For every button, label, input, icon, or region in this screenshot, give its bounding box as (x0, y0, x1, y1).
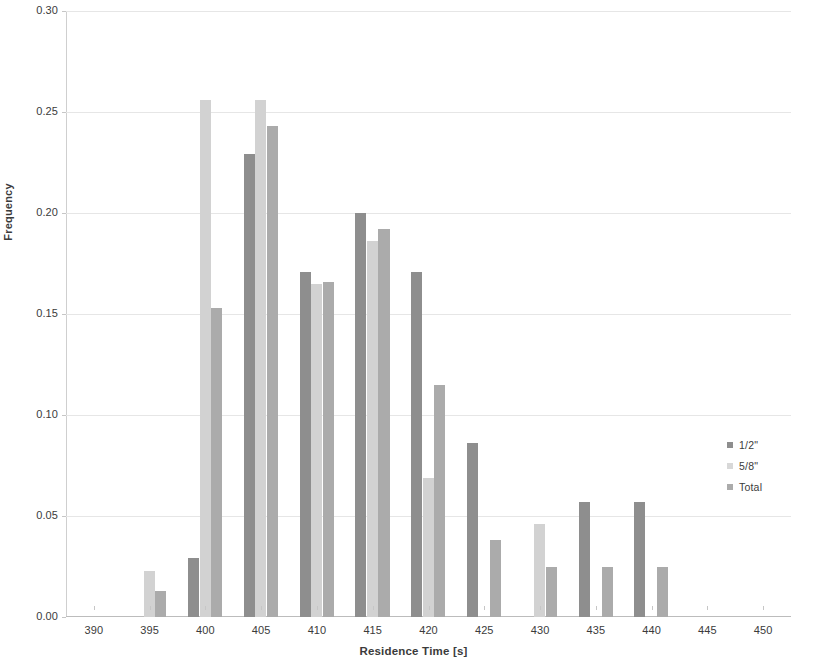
bar (188, 558, 199, 617)
y-axis-tick-label: 0.00 (4, 610, 58, 622)
x-axis-tick-mark (707, 606, 708, 610)
x-axis-tick-label: 400 (185, 624, 225, 636)
bar (155, 591, 166, 617)
bar (434, 385, 445, 617)
x-axis-tick-label: 420 (409, 624, 449, 636)
x-axis-tick-mark (317, 606, 318, 610)
x-axis-tick-mark (596, 606, 597, 610)
y-axis-tick-mark (62, 112, 66, 113)
gridline (66, 112, 791, 113)
x-axis-title: Residence Time [s] (0, 645, 827, 657)
bar (411, 272, 422, 617)
bar (490, 540, 501, 617)
y-axis-tick-label: 0.05 (4, 509, 58, 521)
legend-swatch-icon (727, 484, 733, 490)
y-axis-tick-label: 0.30 (4, 4, 58, 16)
x-axis-tick-label: 415 (353, 624, 393, 636)
x-axis-tick-mark (150, 606, 151, 610)
gridline (66, 213, 791, 214)
x-axis-tick-label: 435 (576, 624, 616, 636)
legend-item-label: 1/2" (739, 439, 758, 451)
x-axis-tick-label: 440 (632, 624, 672, 636)
bar (367, 241, 378, 617)
legend-item-label: 5/8" (739, 460, 758, 472)
y-axis-tick-label: 0.15 (4, 307, 58, 319)
frequency-histogram-chart: Frequency 0.000.050.100.150.200.250.30 3… (0, 0, 827, 666)
x-axis-tick-label: 395 (130, 624, 170, 636)
bar (300, 272, 311, 617)
y-axis-tick-mark (62, 516, 66, 517)
bar (467, 443, 478, 617)
legend-swatch-icon (727, 442, 733, 448)
x-axis-tick-label: 405 (241, 624, 281, 636)
legend-item[interactable]: 1/2" (727, 434, 762, 455)
legend-item[interactable]: 5/8" (727, 455, 762, 476)
legend-swatch-icon (727, 463, 733, 469)
x-axis-tick-mark (261, 606, 262, 610)
x-axis-tick-mark (652, 606, 653, 610)
bar (579, 502, 590, 617)
legend-item[interactable]: Total (727, 476, 762, 497)
bar (602, 567, 613, 618)
x-axis-tick-mark (373, 606, 374, 610)
x-axis-tick-label: 410 (297, 624, 337, 636)
x-axis-tick-mark (763, 606, 764, 610)
bar (378, 229, 389, 617)
y-axis-tick-mark (62, 314, 66, 315)
x-axis-tick-label: 430 (520, 624, 560, 636)
x-axis-tick-mark (484, 606, 485, 610)
bar (355, 213, 366, 617)
x-axis-tick-mark (205, 606, 206, 610)
y-axis-tick-label: 0.20 (4, 206, 58, 218)
legend-item-label: Total (739, 481, 762, 493)
y-axis-tick-label: 0.25 (4, 105, 58, 117)
y-axis-tick-mark (62, 11, 66, 12)
bar (211, 308, 222, 617)
x-axis-tick-mark (429, 606, 430, 610)
x-axis-tick-mark (540, 606, 541, 610)
x-axis-tick-mark (94, 606, 95, 610)
bar (267, 126, 278, 617)
chart-legend: 1/2"5/8"Total (727, 434, 762, 497)
y-axis-tick-mark (62, 415, 66, 416)
gridline (66, 11, 791, 12)
bar (657, 567, 668, 618)
bar (546, 567, 557, 618)
y-axis-tick-mark (62, 617, 66, 618)
bar (200, 100, 211, 617)
x-axis-tick-label: 445 (687, 624, 727, 636)
plot-area (66, 11, 791, 617)
x-axis-tick-label: 425 (464, 624, 504, 636)
bar (534, 524, 545, 617)
y-axis-tick-label: 0.10 (4, 408, 58, 420)
bar (634, 502, 645, 617)
bar (311, 284, 322, 617)
x-axis-tick-label: 390 (74, 624, 114, 636)
bar (144, 571, 155, 617)
bar (423, 478, 434, 617)
bar (323, 282, 334, 617)
gridline (66, 415, 791, 416)
gridline (66, 314, 791, 315)
x-axis-tick-label: 450 (743, 624, 783, 636)
bar (255, 100, 266, 617)
y-axis-tick-mark (62, 213, 66, 214)
bar (244, 154, 255, 617)
